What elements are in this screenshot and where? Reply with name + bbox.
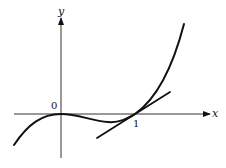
function-curve (14, 24, 184, 145)
diagram-canvas: y x 0 1 (0, 0, 226, 168)
tangent-line (97, 92, 170, 138)
graph-svg (0, 0, 226, 168)
origin-label: 0 (51, 101, 57, 111)
y-axis-label: y (58, 6, 64, 17)
x-tick-label-1: 1 (133, 119, 139, 129)
x-axis-label: x (212, 108, 218, 119)
